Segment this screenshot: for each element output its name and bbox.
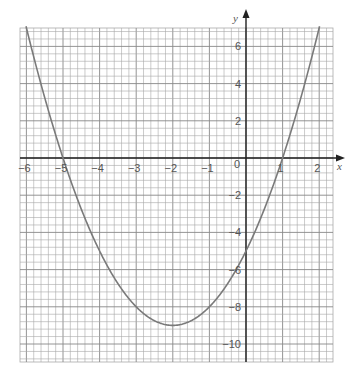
parabola-chart: −6−5−4−3−2−1012−10−8−6−4−2246 x y [0,0,358,383]
y-tick-label: −10 [222,338,241,350]
x-axis-label: x [336,160,342,172]
x-tick-label: −4 [91,162,104,174]
x-tick-label: 0 [234,158,240,170]
x-tick-label: 1 [278,162,284,174]
x-tick-label: 2 [314,162,320,174]
grid [20,28,333,362]
y-tick-label: −8 [228,301,241,313]
y-tick-label: −4 [228,226,241,238]
x-tick-label: −6 [18,162,31,174]
x-tick-label: −2 [165,162,178,174]
y-tick-label: 2 [235,115,241,127]
x-tick-label: −5 [55,162,68,174]
x-tick-label: −3 [128,162,141,174]
y-axis-label: y [232,12,238,24]
x-tick-label: −1 [201,162,214,174]
y-tick-label: −2 [228,189,241,201]
y-tick-label: 4 [235,78,241,90]
y-axis-arrow-icon [243,9,250,18]
y-tick-label: −6 [228,264,241,276]
y-tick-label: 6 [235,40,241,52]
